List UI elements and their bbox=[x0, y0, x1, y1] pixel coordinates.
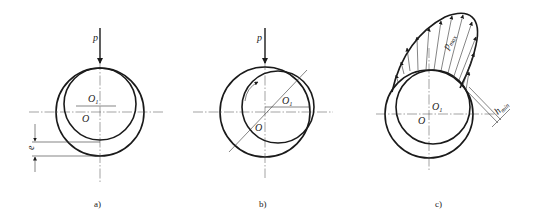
bearing-center-label: O bbox=[82, 113, 89, 124]
journal-center-label: O1 bbox=[88, 93, 98, 105]
load-label: p bbox=[256, 32, 262, 43]
max-pressure-label: pmax bbox=[440, 32, 459, 53]
bearing-center-label: O bbox=[255, 122, 262, 133]
rotation-arrow bbox=[245, 82, 258, 101]
caption-b: b) bbox=[259, 199, 267, 209]
eccentric-line bbox=[229, 70, 307, 152]
eccentricity-label: e bbox=[25, 145, 36, 150]
min-film-line-1 bbox=[469, 87, 501, 120]
panel-c: pmax hmin O1 O c) bbox=[376, 13, 511, 209]
panel-b: p O1 O b) bbox=[193, 28, 333, 209]
load-label: p bbox=[92, 32, 98, 43]
journal-center-label: O1 bbox=[432, 101, 442, 113]
bearing-center-label: O bbox=[418, 115, 425, 126]
journal-center-label: O1 bbox=[282, 95, 292, 107]
min-film-label: hmin bbox=[492, 98, 511, 117]
panel-a: p O1 O e a) bbox=[25, 28, 163, 209]
caption-a: a) bbox=[94, 199, 101, 209]
bearing-diagram: p O1 O e a) p O1 O b) bbox=[0, 0, 538, 224]
caption-c: c) bbox=[435, 199, 442, 209]
